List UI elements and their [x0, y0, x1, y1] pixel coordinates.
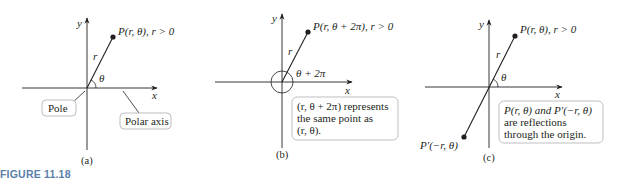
point-p: [305, 29, 310, 34]
note-line: through the origin.: [504, 128, 586, 140]
y-axis-label: y: [76, 17, 82, 29]
point-p-prime: [461, 134, 466, 139]
point-label: P(r, θ), r > 0: [117, 25, 175, 38]
point-p: [110, 34, 115, 39]
panel-caption: (c): [483, 152, 495, 164]
panel-caption: (b): [276, 149, 289, 161]
y-axis-label: y: [478, 18, 484, 30]
x-axis-label: x: [151, 89, 157, 101]
angle-label: θ + 2π: [296, 67, 326, 79]
polar-coordinates-figure: x y r θ P(r, θ), r > 0 Pole Polar axis (…: [0, 0, 625, 181]
point-label: P(r, θ), r > 0: [519, 23, 577, 36]
panel-a: x y r θ P(r, θ), r > 0 Pole Polar axis (…: [22, 17, 175, 167]
pole-label: Pole: [48, 102, 68, 114]
angle-label: θ: [501, 71, 507, 83]
point-label: P(r, θ + 2π), r > 0: [312, 20, 394, 33]
radius-label: r: [93, 50, 98, 62]
polar-axis-label: Polar axis: [125, 115, 169, 127]
angle-arc: [91, 80, 96, 88]
note-line: are reflections: [504, 116, 567, 128]
x-axis-label: x: [344, 84, 350, 96]
note-line: the same point as: [297, 112, 373, 124]
panel-c: x y r θ P(r, θ), r > 0 P′(−r, θ) P(r, θ)…: [419, 18, 603, 164]
figure-title: FIGURE 11.18: [0, 168, 71, 180]
angle-label: θ: [99, 72, 105, 84]
point-p: [512, 33, 517, 38]
y-axis-label: y: [271, 12, 277, 24]
radius-label: r: [496, 48, 501, 60]
note-line: (r, θ).: [297, 124, 321, 137]
reflected-point-label: P′(−r, θ): [419, 139, 458, 152]
angle-arc: [493, 79, 498, 87]
panel-caption: (a): [81, 155, 93, 167]
x-axis-label: x: [554, 88, 560, 100]
panel-b: x y r θ + 2π P(r, θ + 2π), r > 0 (r, θ +…: [215, 12, 398, 161]
polar-axis-leader: [123, 91, 139, 113]
radius-label: r: [288, 45, 293, 57]
